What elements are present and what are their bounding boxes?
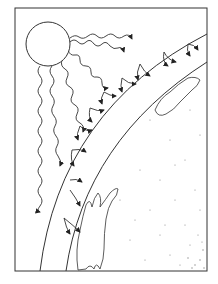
atmosphere-inner-arc xyxy=(66,62,207,271)
ray-2 xyxy=(50,66,61,166)
ray-3 xyxy=(61,60,83,132)
diagram xyxy=(0,0,218,284)
earth-surface xyxy=(119,109,204,268)
cloud-lower xyxy=(77,189,118,271)
sun-circle xyxy=(26,22,70,66)
ray-6 xyxy=(70,34,132,39)
scatter-arrows xyxy=(64,44,198,234)
ray-5 xyxy=(70,40,124,52)
ray-4 xyxy=(68,50,108,88)
ray-1 xyxy=(38,66,42,212)
